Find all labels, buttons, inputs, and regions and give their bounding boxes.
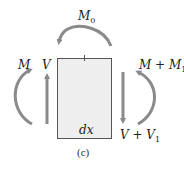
right-moment-symbol: M + M xyxy=(139,58,181,72)
left-moment-arrow-icon xyxy=(15,70,32,124)
right-moment-label: M + M1 xyxy=(139,59,184,74)
left-shear-label: V xyxy=(42,59,51,71)
right-shear-symbol: V + V xyxy=(120,128,155,142)
left-moment-label: M xyxy=(18,59,30,71)
applied-moment-label: M0 xyxy=(78,10,95,25)
figure-caption: (c) xyxy=(77,147,89,158)
element-length-label: dx xyxy=(79,124,93,136)
applied-moment-arrow-icon xyxy=(59,27,111,46)
applied-moment-subscript: 0 xyxy=(90,16,95,25)
applied-moment-symbol: M xyxy=(78,9,90,23)
right-shear-subscript: 1 xyxy=(155,135,160,144)
beam-element-free-body-diagram: M0 M V M + M1 V + V1 dx (c) xyxy=(0,0,184,169)
right-shear-label: V + V1 xyxy=(120,129,160,144)
right-moment-subscript: 1 xyxy=(181,65,184,74)
right-moment-arrow-icon xyxy=(138,72,155,124)
